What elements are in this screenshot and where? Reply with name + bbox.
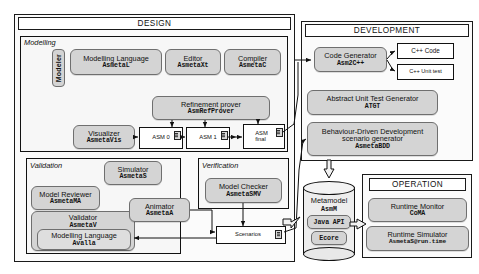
metamodel-ecore-label: Ecore — [319, 235, 338, 242]
tool-id: CoMA — [410, 210, 425, 217]
tool-id: Asm2C++ — [337, 60, 364, 67]
tool-id: AsmetaL — [103, 62, 130, 69]
tool-id: AsmetaS@run.time — [389, 239, 446, 246]
panel-operation-title: OPERATION — [392, 180, 443, 189]
document-icon — [221, 131, 228, 140]
artifact-cpp-code-label: C++ Code — [411, 48, 440, 55]
artifact-asm-final-line2: final — [255, 136, 266, 142]
tool-editor-asmetaxt[interactable]: Editor AsmetaXt — [165, 49, 221, 75]
group-modelling-caption: Modelling — [24, 38, 56, 47]
role-modeler-label: Modeler — [55, 54, 62, 82]
tool-id: AsmetaSMV — [226, 191, 261, 198]
tool-runtime-simulator-asmetas-runtime[interactable]: Runtime Simulator AsmetaS@run.time — [366, 226, 469, 251]
tool-name: Simulator — [118, 166, 149, 174]
artifact-scenarios[interactable]: Scenarios — [216, 226, 286, 244]
tool-name: Code Generator — [324, 52, 376, 60]
metamodel-java-api-label: Java API — [314, 219, 345, 226]
tool-id: AsmetaC — [239, 62, 266, 69]
tool-modelling-language-asmetal[interactable]: Modelling Language AsmetaL — [70, 49, 162, 75]
tool-id: AsmetaVis — [87, 137, 122, 144]
tool-id: AsmetaXt — [178, 62, 209, 69]
tool-runtime-monitor-coma[interactable]: Runtime Monitor CoMA — [368, 198, 467, 222]
tool-id: ATGT — [365, 103, 380, 110]
artifact-asm-final[interactable]: ASM final — [243, 124, 285, 149]
metamodel-name: Metamodel — [311, 197, 348, 205]
tool-code-generator-asm2cpp[interactable]: Code Generator Asm2C++ — [314, 47, 387, 72]
tool-name-line2: scenario generator — [342, 135, 403, 143]
tool-name: Model Reviewer — [39, 191, 91, 199]
panel-design-title: DESIGN — [138, 19, 172, 28]
tool-id: Avalla — [72, 240, 95, 247]
tool-name: Validator — [69, 214, 97, 222]
tool-modelling-language-avalla[interactable]: Modelling Language Avalla — [37, 229, 131, 250]
tool-atgt[interactable]: Abstract Unit Test Generator ATGT — [307, 90, 438, 115]
tool-refinement-prover-asmrefprover[interactable]: Refinement prover AsmRefProver — [152, 96, 270, 120]
artifact-cpp-unit-test[interactable]: C++ Unit test — [397, 64, 454, 80]
panel-design-header: DESIGN — [18, 17, 291, 30]
tool-visualizer-asmetavis[interactable]: Visualizer AsmetaVis — [73, 125, 135, 149]
tool-id: AsmetaMA — [50, 198, 81, 205]
tool-model-checker-asmetasmv[interactable]: Model Checker AsmetaSMV — [205, 178, 282, 203]
tool-model-reviewer-asmetama[interactable]: Model Reviewer AsmetaMA — [31, 186, 100, 210]
tool-name: Modelling Language — [51, 232, 117, 240]
tool-name: Refinement prover — [181, 101, 241, 109]
artifact-asm-final-label: ASM final — [255, 131, 268, 143]
tool-name: Abstract Unit Test Generator — [327, 95, 419, 103]
tool-id: AsmetaS — [120, 173, 147, 180]
tool-compiler-asmetac[interactable]: Compiler AsmetaC — [224, 49, 281, 75]
artifact-scenarios-label: Scenarios — [235, 232, 261, 238]
tool-id: AsmetaBDD — [355, 143, 390, 150]
tool-id: AsmetaA — [146, 210, 173, 217]
role-modeler: Modeler — [52, 49, 65, 87]
panel-development-title: DEVELOPMENT — [354, 26, 420, 35]
tool-id: AsmRefProver — [188, 108, 234, 115]
document-icon — [174, 131, 181, 140]
datastore-metamodel[interactable]: Metamodel AsmM Java API Ecore — [303, 181, 355, 261]
artifact-asm-1[interactable]: ASM 1 — [186, 127, 230, 149]
artifact-cpp-unit-test-label: C++ Unit test — [409, 69, 442, 75]
panel-development-header: DEVELOPMENT — [305, 24, 469, 37]
metamodel-id: AsmM — [321, 206, 337, 213]
tool-animator-asmetaa[interactable]: Animator AsmetaA — [129, 198, 190, 222]
group-validation-caption: Validation — [30, 161, 62, 170]
tool-name: Runtime Monitor — [391, 203, 445, 211]
artifact-cpp-code[interactable]: C++ Code — [397, 43, 454, 59]
panel-operation-header: OPERATION — [369, 178, 466, 191]
tool-asmetabdd[interactable]: Behaviour-Driven Development scenario ge… — [307, 122, 438, 156]
tool-name: Animator — [145, 203, 174, 211]
artifact-asm-0[interactable]: ASM 0 — [139, 127, 183, 149]
tool-simulator-asmetas[interactable]: Simulator AsmetaS — [104, 161, 162, 185]
tool-id: AsmetaV — [70, 222, 97, 229]
group-verification-caption: Verification — [202, 161, 238, 170]
metamodel-java-api[interactable]: Java API — [307, 215, 351, 229]
diagram-canvas: DESIGN Modelling Modeler Modelling Langu… — [0, 0, 479, 274]
metamodel-ecore[interactable]: Ecore — [311, 231, 347, 245]
tool-name: Model Checker — [219, 183, 268, 191]
document-icon — [275, 230, 282, 239]
document-icon — [276, 128, 283, 137]
tool-name: Visualizer — [88, 130, 120, 138]
tool-name: Compiler — [238, 55, 267, 63]
tool-name: Modelling Language — [83, 55, 149, 63]
hollow-arrow-metamodel-up — [324, 160, 334, 178]
tool-name: Editor — [183, 55, 202, 63]
artifact-asm-1-label: ASM 1 — [199, 135, 216, 141]
artifact-asm-0-label: ASM 0 — [152, 135, 169, 141]
